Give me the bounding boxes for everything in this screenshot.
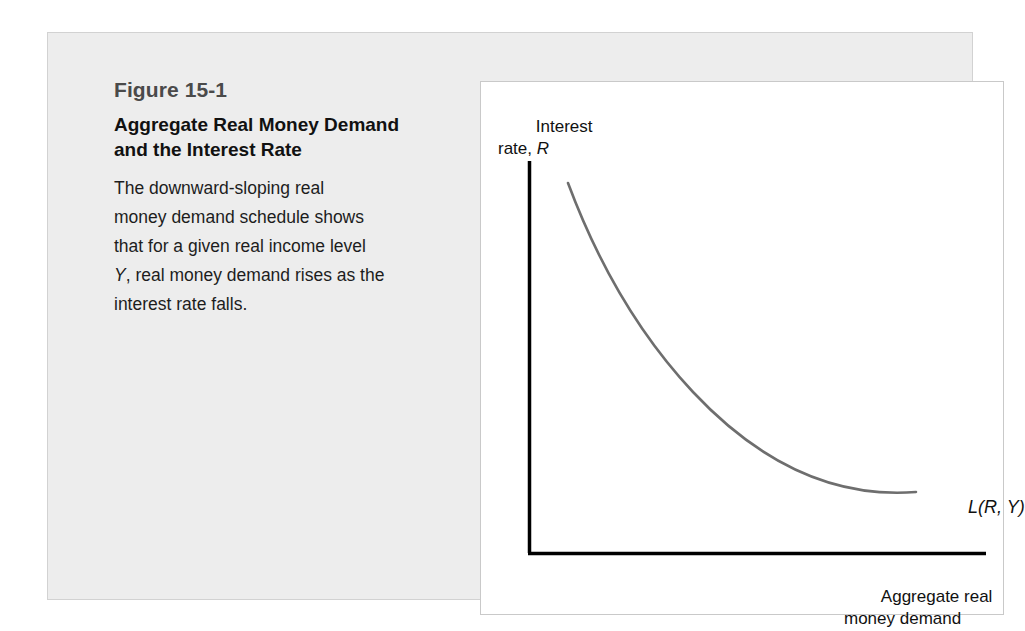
x-axis-label-line-1: Aggregate real [881, 587, 993, 606]
curve-label-variable-y: Y [1007, 497, 1019, 517]
description-line-5: interest rate falls. [114, 294, 247, 314]
y-axis-label: Interestrate, R [498, 94, 593, 182]
curve-label-variable-r: R [984, 497, 997, 517]
curve-label-separator: , [997, 497, 1007, 517]
description-line-1: The downward-sloping real [114, 178, 324, 198]
chart-panel: Interestrate, R Aggregate realmoney dema… [480, 81, 1004, 615]
figure-title-line-2: and the Interest Rate [114, 139, 302, 160]
curve-label-money-demand: L(R, Y) [928, 474, 1025, 540]
x-axis-label: Aggregate realmoney demand [844, 564, 992, 631]
x-axis-label-line-2: money demand [844, 609, 961, 628]
curve-label-prefix: L( [968, 497, 984, 517]
figure-title: Aggregate Real Money Demand and the Inte… [114, 112, 444, 162]
figure-number: Figure 15-1 [114, 77, 444, 103]
figure-description: The downward-sloping real money demand s… [114, 174, 444, 319]
money-demand-curve [568, 183, 916, 493]
figure-title-line-1: Aggregate Real Money Demand [114, 114, 399, 135]
description-variable-y: Y [114, 265, 126, 285]
description-line-4: , real money demand rises as the [126, 265, 385, 285]
y-axis-label-variable-r: R [537, 139, 549, 158]
description-line-2: money demand schedule shows [114, 207, 364, 227]
description-line-3: that for a given real income level [114, 236, 366, 256]
y-axis-label-line-2-prefix: rate, [498, 139, 537, 158]
curve-label-suffix: ) [1019, 497, 1025, 517]
figure-caption-column: Figure 15-1 Aggregate Real Money Demand … [114, 77, 444, 319]
figure-container: Figure 15-1 Aggregate Real Money Demand … [47, 32, 973, 600]
y-axis-label-line-1: Interest [536, 117, 593, 136]
